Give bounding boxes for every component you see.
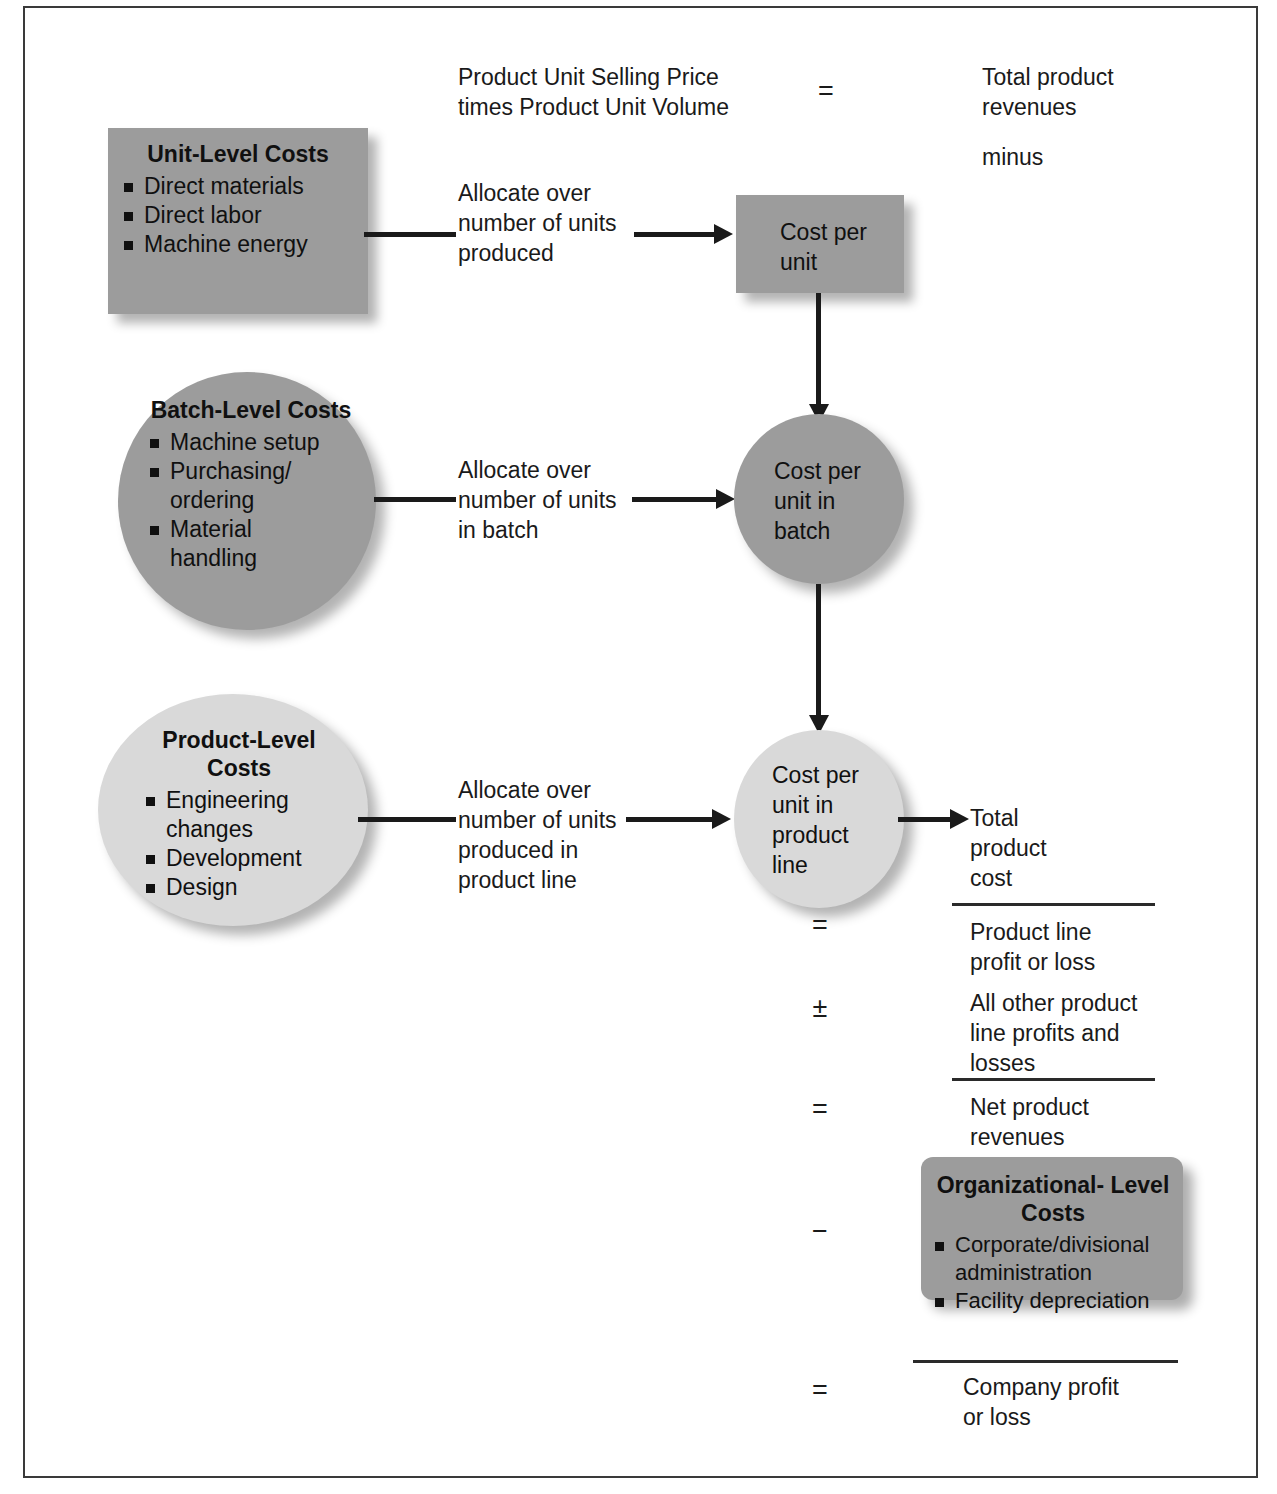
unit-level-connector-line-right (634, 232, 716, 237)
bullet-square-icon (124, 241, 133, 250)
organizational-level-costs-list: Corporate/divisional administration Faci… (933, 1231, 1173, 1315)
product-level-allocation-label: Allocate over number of units produced i… (458, 775, 658, 895)
bullet-square-icon (146, 797, 155, 806)
list-item: Engineering changes (144, 786, 350, 844)
bullet-square-icon (150, 468, 159, 477)
list-item: Development (144, 844, 350, 873)
operator-plus-minus: ± (800, 995, 840, 1022)
bullet-square-icon (124, 183, 133, 192)
bullet-square-icon (150, 439, 159, 448)
net-product-revenues-label: Net product revenues (970, 1092, 1200, 1152)
batch-level-arrowhead-icon (716, 489, 735, 509)
unit-level-costs-list: Direct materials Direct labor Machine en… (122, 172, 354, 259)
bullet-square-icon (935, 1242, 944, 1251)
unit-level-connector-line-left (364, 232, 456, 237)
product-line-profit-label: Product line profit or loss (970, 917, 1200, 977)
cost-per-unit-box[interactable]: Cost per unit (736, 195, 904, 293)
unit-level-costs-box[interactable]: Unit-Level Costs Direct materials Direct… (108, 128, 368, 314)
cost-per-unit-in-product-line-label: Cost per unit in product line (772, 760, 904, 880)
all-other-product-lines-label: All other product line profits and losse… (970, 988, 1210, 1078)
total-product-revenues-label: Total product revenues (982, 62, 1202, 122)
product-level-connector-line-left (358, 817, 456, 822)
batch-level-costs-list: Machine setup Purchasing/ ordering Mater… (148, 428, 354, 573)
batch-level-connector-line-left (374, 497, 456, 502)
batch-level-allocation-label: Allocate over number of units in batch (458, 455, 648, 545)
product-level-connector-line-right (626, 817, 714, 822)
income-rule-2 (952, 1078, 1155, 1081)
organizational-level-costs-box[interactable]: Organizational- Level Costs Corporate/di… (921, 1157, 1183, 1300)
batch-level-costs-circle[interactable]: Batch-Level Costs Machine setup Purchasi… (118, 372, 376, 630)
organizational-level-costs-title: Organizational- Level Costs (933, 1171, 1173, 1227)
product-level-arrowhead-icon (712, 809, 731, 829)
income-rule-1 (952, 903, 1155, 906)
list-item: Purchasing/ ordering (148, 457, 354, 515)
batch-level-connector-line-right (632, 497, 718, 502)
company-profit-label: Company profit or loss (963, 1372, 1203, 1432)
cost-per-unit-in-batch-label: Cost per unit in batch (774, 456, 904, 546)
operator-minus: − (800, 1218, 840, 1245)
operator-equals-1: = (800, 912, 840, 939)
unit-level-arrowhead-icon (714, 224, 733, 244)
diagram-page: Product Unit Selling Price times Product… (0, 0, 1277, 1494)
batch-to-product-connector-line (816, 584, 821, 717)
list-item: Facility depreciation (933, 1287, 1173, 1315)
revenue-formula: Product Unit Selling Price times Product… (458, 62, 788, 122)
cost-per-unit-label: Cost per unit (780, 217, 904, 277)
operator-equals-3: = (800, 1377, 840, 1404)
list-item: Machine setup (148, 428, 354, 457)
minus-label: minus (982, 142, 1202, 172)
list-item: Material handling (148, 515, 354, 573)
product-level-costs-circle[interactable]: Product-Level Costs Engineering changes … (98, 694, 368, 926)
operator-equals-2: = (800, 1096, 840, 1123)
bullet-square-icon (146, 884, 155, 893)
total-product-cost-label: Total product cost (970, 803, 1200, 893)
list-item: Direct labor (122, 201, 354, 230)
unit-level-costs-title: Unit-Level Costs (122, 140, 354, 168)
list-item: Design (144, 873, 350, 902)
bullet-square-icon (150, 526, 159, 535)
unit-level-allocation-label: Allocate over number of units produced (458, 178, 648, 268)
bullet-square-icon (146, 855, 155, 864)
product-level-costs-list: Engineering changes Development Design (144, 786, 350, 902)
bullet-square-icon (124, 212, 133, 221)
revenue-equals-operator: = (806, 78, 846, 105)
list-item: Corporate/divisional administration (933, 1231, 1173, 1287)
total-product-cost-arrowhead-icon (950, 809, 969, 829)
cost-per-unit-in-product-line-circle[interactable]: Cost per unit in product line (734, 730, 904, 908)
list-item: Machine energy (122, 230, 354, 259)
batch-level-costs-title: Batch-Level Costs (148, 396, 354, 424)
bullet-square-icon (935, 1298, 944, 1307)
unit-to-batch-connector-line (816, 293, 821, 406)
cost-per-unit-in-batch-circle[interactable]: Cost per unit in batch (734, 414, 904, 584)
product-level-costs-title: Product-Level Costs (128, 726, 350, 782)
list-item: Direct materials (122, 172, 354, 201)
income-rule-3 (913, 1360, 1178, 1363)
product-line-to-total-cost-line (898, 817, 952, 822)
